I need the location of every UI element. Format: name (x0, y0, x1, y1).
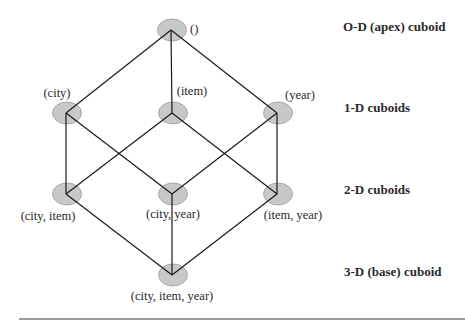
edge-apex-to-year (171, 30, 277, 113)
node-label-apex: () (190, 22, 198, 36)
level-label-2d: 2-D cuboids (344, 182, 410, 197)
node-label-year: (year) (285, 88, 315, 102)
node-label-item: (item) (177, 84, 208, 98)
node-label-city-item: (city, item) (21, 209, 76, 223)
node-label-base: (city, item, year) (131, 289, 213, 303)
edge-apex-to-item (171, 30, 172, 113)
edge-apex-to-city (66, 30, 171, 113)
cuboid-lattice-diagram: ()(city)(item)(year)(city, item)(city, y… (0, 0, 465, 324)
node-label-item-year: (item, year) (264, 208, 322, 222)
cuboid-node-city-item (53, 183, 82, 205)
node-label-city-year: (city, year) (146, 207, 200, 221)
level-label-apex: O-D (apex) cuboid (343, 19, 446, 34)
level-label-1d: 1-D cuboids (344, 100, 410, 115)
level-label-base: 3-D (base) cuboid (344, 264, 442, 279)
level-labels: O-D (apex) cuboid 1-D cuboids 2-D cuboid… (343, 19, 446, 279)
node-label-city: (city) (43, 86, 70, 100)
edges (66, 30, 277, 275)
cuboid-node-city (53, 102, 82, 124)
